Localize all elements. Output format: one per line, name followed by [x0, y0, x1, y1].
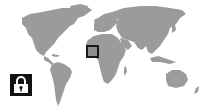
land-masses — [22, 4, 199, 106]
australia — [166, 70, 188, 88]
madagascar — [124, 66, 127, 76]
world-map — [0, 0, 218, 112]
caribbean — [52, 54, 60, 57]
central-america — [44, 56, 54, 65]
location-marker[interactable] — [86, 45, 99, 58]
southeast-asia-islands — [150, 56, 176, 64]
africa — [86, 34, 126, 84]
south-america — [50, 62, 72, 106]
new-zealand — [194, 86, 199, 94]
lock-icon[interactable] — [10, 74, 32, 96]
